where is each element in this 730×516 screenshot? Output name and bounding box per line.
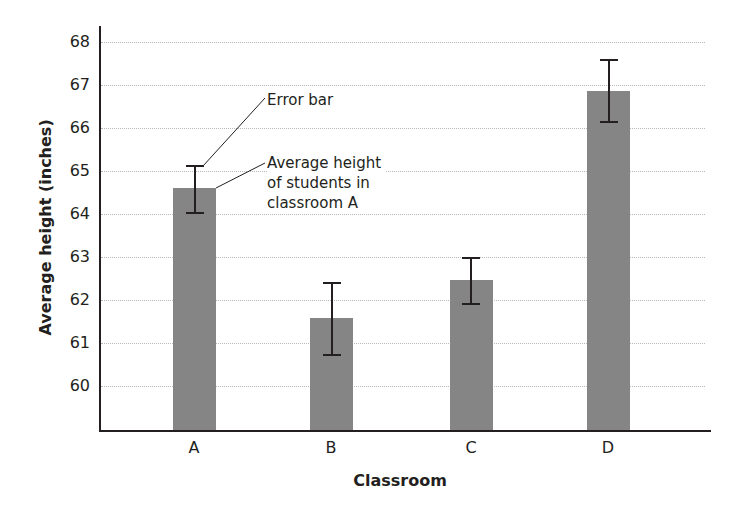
annotation-error-bar: Error bar [267,90,337,110]
annotation-line-3: classroom A [267,193,381,213]
bar-chart: 60 61 62 63 64 65 66 67 68 A B C D Class… [0,0,730,516]
annotation-average-height: Average height of students in classroom … [267,153,385,213]
annotation-line-2: of students in [267,173,381,193]
annotation-line-1: Average height [267,153,381,173]
annotation-leader-lines [0,0,730,516]
